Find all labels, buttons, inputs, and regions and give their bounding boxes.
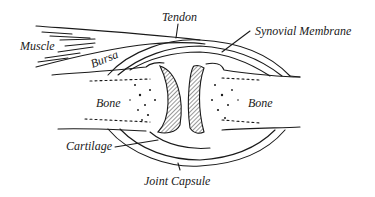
muscle-shape	[36, 26, 205, 67]
capsule-bottom	[108, 129, 285, 166]
label-synovial-membrane: Synovial Membrane	[255, 25, 351, 37]
tendon-leader	[176, 24, 178, 38]
label-cartilage: Cartilage	[66, 140, 112, 152]
cartilage-right	[188, 65, 204, 133]
cartilage-leader	[115, 140, 158, 147]
cartilage-left	[158, 66, 181, 133]
label-tendon: Tendon	[162, 11, 197, 23]
synovial-leader	[222, 31, 250, 52]
label-muscle: Muscle	[20, 40, 55, 52]
label-bone-right: Bone	[248, 97, 273, 109]
bone-texture	[129, 84, 239, 121]
capsule-leader	[178, 163, 180, 170]
label-joint-capsule: Joint Capsule	[144, 175, 210, 187]
label-bone-left: Bone	[96, 97, 121, 109]
